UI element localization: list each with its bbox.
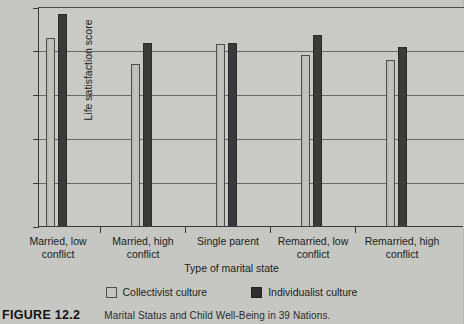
ytick-mark-20 <box>33 51 39 52</box>
bar-individualist-remarried-high-conflict <box>398 47 407 227</box>
legend-label-collectivist: Collectivist culture <box>123 286 208 298</box>
bar-collectivist-remarried-low-conflict <box>301 55 310 227</box>
ytick-mark-0 <box>33 227 39 228</box>
y-axis-label: Life satisfaction score <box>82 0 94 155</box>
bar-individualist-single-parent <box>228 43 237 227</box>
x-axis-line <box>38 226 463 227</box>
ytick-mark-15 <box>33 95 39 96</box>
xtick-mark-4 <box>355 227 356 233</box>
xtick-label-line1: Remarried, high <box>350 235 454 248</box>
legend-entry-individualist: Individualist culture <box>251 286 357 298</box>
ytick-mark-10 <box>33 139 39 140</box>
legend-swatch-collectivist-icon <box>106 287 117 298</box>
figure-caption: FIGURE 12.2 Marital Status and Child Wel… <box>0 308 463 324</box>
legend-entry-collectivist: Collectivist culture <box>106 286 208 298</box>
figure-number: FIGURE 12.2 <box>2 308 80 322</box>
ytick-mark-5 <box>33 183 39 184</box>
legend: Collectivist culture Individualist cultu… <box>0 286 463 298</box>
bar-collectivist-married-low-conflict <box>46 38 55 227</box>
ytick-mark-25 <box>33 8 39 9</box>
xtick-mark-1 <box>100 227 101 233</box>
legend-swatch-individualist-icon <box>251 287 262 298</box>
xtick-label-line2: conflict <box>91 248 195 261</box>
figure-caption-text: Marital Status and Child Well-Being in 3… <box>104 308 330 321</box>
bar-collectivist-single-parent <box>216 44 225 227</box>
xtick-label-remarried-high-conflict: Remarried, high conflict <box>350 235 454 260</box>
bar-collectivist-married-high-conflict <box>131 64 140 227</box>
xtick-mark-2 <box>185 227 186 233</box>
plot-area: 25 20 15 10 5 0 Life satisfaction score <box>38 7 464 227</box>
bar-collectivist-remarried-high-conflict <box>386 60 395 227</box>
bar-individualist-married-low-conflict <box>58 14 67 227</box>
legend-label-individualist: Individualist culture <box>268 286 357 298</box>
bar-individualist-married-high-conflict <box>143 43 152 227</box>
x-axis-label: Type of marital state <box>0 262 463 274</box>
xtick-label-line2: conflict <box>350 248 454 261</box>
bar-individualist-remarried-low-conflict <box>313 35 322 227</box>
xtick-mark-3 <box>270 227 271 233</box>
